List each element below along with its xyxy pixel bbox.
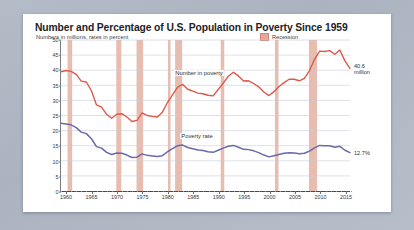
x-axis-minor-tick [249, 191, 250, 192]
y-axis-tick-mark [59, 100, 61, 101]
x-axis-minor-tick [173, 191, 174, 192]
x-axis-minor-tick [239, 191, 240, 192]
y-axis-tick-mark [59, 176, 61, 177]
x-axis-minor-tick [97, 191, 98, 192]
y-axis-tick-label: 15 [53, 143, 59, 149]
x-axis-minor-tick [132, 191, 133, 192]
x-axis-minor-tick [178, 191, 179, 192]
x-axis-tick-label: 2005 [289, 194, 301, 200]
x-axis-tick-mark [92, 191, 93, 194]
x-axis-minor-tick [147, 191, 148, 192]
screenshot-root: Number and Percentage of U.S. Population… [0, 0, 414, 230]
x-axis-minor-tick [163, 191, 164, 192]
x-axis-tick-label: 1965 [86, 194, 98, 200]
x-axis-tick-label: 1970 [111, 194, 123, 200]
page-title: Number and Percentage of U.S. Population… [35, 22, 348, 33]
x-axis-minor-tick [61, 191, 62, 192]
x-axis-minor-tick [86, 191, 87, 192]
x-axis-minor-tick [265, 191, 266, 192]
x-axis-minor-tick [112, 191, 113, 192]
x-axis-tick-label: 1995 [238, 194, 250, 200]
x-axis-minor-tick [305, 191, 306, 192]
x-axis-tick-mark [142, 191, 143, 194]
annotation-rate-end: 12.7% [354, 150, 370, 156]
x-axis-tick-mark [320, 191, 321, 194]
y-axis-tick-label: 20 [53, 128, 59, 134]
plot-wrapper: 0510152025303540455019601965197019751980… [36, 40, 378, 206]
x-axis-tick-mark [117, 191, 118, 194]
chart-subtitle: Numbers in millions, rates in percent [36, 34, 128, 40]
y-axis-tick-mark [59, 85, 61, 86]
x-axis-minor-tick [76, 191, 77, 192]
x-axis-minor-tick [234, 191, 235, 192]
x-axis-minor-tick [102, 191, 103, 192]
x-axis-minor-tick [331, 191, 332, 192]
x-axis-minor-tick [137, 191, 138, 192]
y-axis-tick-mark [59, 131, 61, 132]
y-axis-tick-mark [59, 161, 61, 162]
y-axis-tick-label: 50 [53, 37, 59, 43]
x-axis-minor-tick [81, 191, 82, 192]
y-axis-tick-mark [59, 146, 61, 147]
x-axis-minor-tick [203, 191, 204, 192]
x-axis-minor-tick [183, 191, 184, 192]
x-axis-minor-tick [71, 191, 72, 192]
x-axis-minor-tick [153, 191, 154, 192]
x-axis-tick-mark [270, 191, 271, 194]
x-axis-minor-tick [336, 191, 337, 192]
y-axis-tick-label: 25 [53, 113, 59, 119]
x-axis-tick-label: 1975 [136, 194, 148, 200]
x-axis-tick-label: 2015 [340, 194, 352, 200]
x-axis-minor-tick [158, 191, 159, 192]
annotation-number-unit: million [354, 69, 370, 75]
x-axis-minor-tick [259, 191, 260, 192]
x-axis-tick-label: 1985 [187, 194, 199, 200]
x-axis-tick-label: 1990 [213, 194, 225, 200]
x-axis-minor-tick [285, 191, 286, 192]
y-axis-tick-label: 40 [53, 67, 59, 73]
x-axis-tick-label: 2010 [314, 194, 326, 200]
x-axis-minor-tick [188, 191, 189, 192]
x-axis-tick-mark [219, 191, 220, 194]
x-axis-tick-mark [346, 191, 347, 194]
y-axis-tick-label: 10 [53, 159, 59, 165]
chart-card: Number and Percentage of U.S. Population… [23, 14, 391, 212]
x-axis-tick-mark [295, 191, 296, 194]
x-axis-minor-tick [254, 191, 255, 192]
y-axis-tick-mark [59, 40, 61, 41]
x-axis-tick-label: 1980 [162, 194, 174, 200]
x-axis-minor-tick [209, 191, 210, 192]
x-axis-minor-tick [198, 191, 199, 192]
x-axis-minor-tick [341, 191, 342, 192]
x-axis-minor-tick [280, 191, 281, 192]
x-axis-minor-tick [107, 191, 108, 192]
y-axis-tick-mark [59, 116, 61, 117]
x-axis-minor-tick [214, 191, 215, 192]
y-axis-tick-label: 30 [53, 98, 59, 104]
y-axis-tick-label: 35 [53, 83, 59, 89]
x-axis-tick-label: 2000 [264, 194, 276, 200]
y-axis-tick-mark [59, 70, 61, 71]
x-axis-minor-tick [315, 191, 316, 192]
y-axis-tick-mark [59, 55, 61, 56]
y-axis-tick-label: 45 [53, 52, 59, 58]
x-axis-tick-label: 1960 [60, 194, 72, 200]
x-axis-minor-tick [127, 191, 128, 192]
x-axis-tick-mark [193, 191, 194, 194]
x-axis-tick-mark [244, 191, 245, 194]
x-axis-minor-tick [122, 191, 123, 192]
x-axis-tick-mark [168, 191, 169, 194]
x-axis-tick-mark [66, 191, 67, 194]
series-lines [61, 50, 350, 158]
x-axis-minor-tick [275, 191, 276, 192]
series-label-number-in-poverty: Number in poverty [174, 70, 223, 76]
x-axis-minor-tick [310, 191, 311, 192]
plot-area: 0510152025303540455019601965197019751980… [60, 40, 350, 192]
chart-svg [61, 40, 350, 191]
x-axis-minor-tick [300, 191, 301, 192]
series-label-poverty-rate: Poverty rate [180, 133, 213, 139]
annotation-number-end: 40.6 million [354, 63, 370, 76]
x-axis-minor-tick [326, 191, 327, 192]
x-axis-minor-tick [229, 191, 230, 192]
gridlines [61, 40, 350, 176]
